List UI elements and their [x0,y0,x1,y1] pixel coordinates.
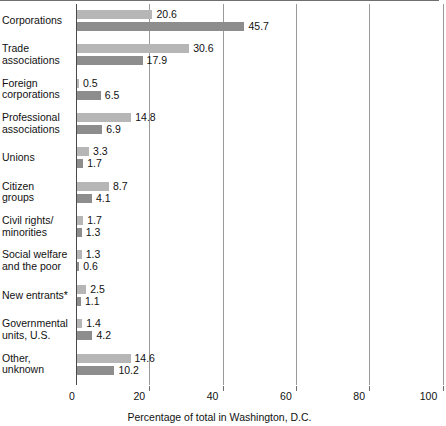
bar-value-label: 17.9 [147,56,167,65]
bar-value-label: 0.6 [83,262,98,271]
bar-value-label: 4.1 [96,194,111,203]
category-label-line: groups [2,192,72,204]
category-label-line: Civil rights/ [2,215,72,227]
bar-value-label: 0.5 [83,79,98,88]
bar-value-label: 2.5 [90,285,105,294]
category-label-line: associations [2,124,72,136]
tick-mark-80 [369,386,370,391]
x-axis-ticks: 020406080100 [76,386,446,402]
bar-value-label: 8.7 [113,182,128,191]
category-label: New entrants* [2,290,72,302]
bar-row: Governmentalunits, U.S.1.44.2 [76,319,439,340]
tick-label-40: 40 [207,390,219,402]
bar-value-label: 1.3 [86,228,101,237]
tick-mark-60 [296,386,297,391]
bar-series-light [77,319,82,328]
category-label: Civil rights/minorities [2,215,72,238]
bar-value-label: 1.3 [86,250,101,259]
bar-series-dark [77,194,92,203]
bar-row: Corporations20.645.7 [76,10,439,31]
bar-series-light [77,10,152,19]
bar-series-light [77,79,79,88]
category-label-line: Unions [2,152,72,164]
bar-row: Foreigncorporations0.56.5 [76,79,439,100]
category-label: Social welfareand the poor [2,249,72,272]
bar-row: Other,unknown14.610.2 [76,354,439,375]
bar-row: Unions3.31.7 [76,147,439,168]
bar-value-label: 6.5 [105,91,120,100]
bar-row: Social welfareand the poor1.30.6 [76,250,439,271]
bar-value-label: 14.8 [135,113,155,122]
category-label: Governmentalunits, U.S. [2,318,72,341]
bar-value-label: 3.3 [93,147,108,156]
category-label-line: units, U.S. [2,330,72,342]
bar-value-label: 1.4 [86,319,101,328]
bar-value-label: 10.2 [118,366,138,375]
bar-value-label: 14.6 [135,354,155,363]
bar-value-label: 20.6 [156,10,176,19]
tick-label-100: 100 [420,390,438,402]
gridline-100 [443,4,444,385]
bar-value-label: 6.9 [106,125,121,134]
bar-value-label: 1.1 [85,297,100,306]
tick-mark-100 [443,386,444,391]
bar-series-dark [77,297,81,306]
bar-row: Tradeassociations30.617.9 [76,44,439,65]
bar-series-light [77,354,131,363]
tick-mark-40 [223,386,224,391]
bar-series-dark [77,125,102,134]
plot-area: Corporations20.645.7Tradeassociations30.… [76,4,439,385]
bar-value-label: 45.7 [248,22,268,31]
category-label-line: Corporations [2,15,72,27]
tick-label-60: 60 [280,390,292,402]
bar-series-dark [77,366,114,375]
bar-value-label: 1.7 [87,216,102,225]
category-label: Foreigncorporations [2,78,72,101]
bar-series-dark [77,159,83,168]
tick-label-0: 0 [69,390,75,402]
category-label-line: minorities [2,227,72,239]
bar-series-light [77,44,189,53]
x-axis-label: Percentage of total in Washington, D.C. [0,411,439,423]
tick-mark-20 [149,386,150,391]
tick-label-80: 80 [353,390,365,402]
category-label: Unions [2,152,72,164]
top-divider-rule [0,0,439,1]
bar-value-label: 30.6 [193,44,213,53]
bar-series-dark [77,228,82,237]
bar-series-light [77,182,109,191]
bar-series-light [77,285,86,294]
bar-series-light [77,250,82,259]
category-label-line: Governmental [2,318,72,330]
category-label: Tradeassociations [2,43,72,66]
category-label: Corporations [2,15,72,27]
category-label-line: and the poor [2,261,72,273]
category-label: Citizengroups [2,181,72,204]
category-label: Other,unknown [2,353,72,376]
category-label: Professionalassociations [2,112,72,135]
category-label-line: corporations [2,89,72,101]
bar-row: Civil rights/minorities1.71.3 [76,216,439,237]
category-label-line: New entrants* [2,290,72,302]
bar-series-dark [77,22,244,31]
bar-row: Citizengroups8.74.1 [76,182,439,203]
tick-label-20: 20 [133,390,145,402]
bar-series-dark [77,56,143,65]
category-label-line: unknown [2,364,72,376]
bar-series-light [77,113,131,122]
bar-rows: Corporations20.645.7Tradeassociations30.… [76,4,439,385]
bar-series-light [77,147,89,156]
bar-value-label: 4.2 [96,331,111,340]
bar-series-light [77,216,83,225]
bar-series-dark [77,262,79,271]
bar-series-dark [77,331,92,340]
bar-row: New entrants*2.51.1 [76,285,439,306]
category-label-line: Professional [2,112,72,124]
bar-row: Professionalassociations14.86.9 [76,113,439,134]
bar-series-dark [77,91,101,100]
category-label-line: associations [2,55,72,67]
bar-value-label: 1.7 [87,159,102,168]
